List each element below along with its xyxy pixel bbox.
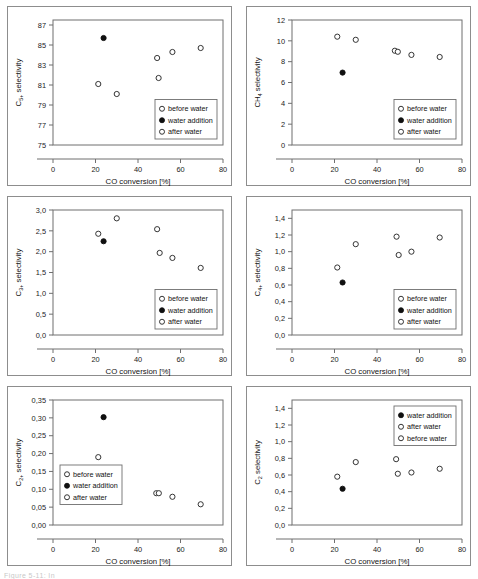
svg-text:20: 20 [330, 355, 338, 364]
svg-text:before water: before water [168, 294, 209, 303]
panel-c4plus: 0,00,20,40,60,81,01,21,4020406080CO conv… [239, 190, 478, 380]
plot-area-3: 0,00,20,40,60,81,01,21,4020406080CO conv… [246, 196, 471, 376]
svg-text:after water: after water [407, 127, 442, 136]
svg-text:8: 8 [281, 57, 285, 66]
svg-text:water addition: water addition [167, 306, 213, 315]
svg-text:after water: after water [407, 317, 442, 326]
svg-text:C3+ selectivity: C3+ selectivity [14, 249, 24, 297]
svg-text:before water: before water [73, 470, 114, 479]
svg-text:1,2: 1,2 [275, 421, 285, 430]
panel-c2plus: 0,000,050,100,150,200,250,300,3502040608… [0, 380, 239, 570]
svg-text:80: 80 [458, 165, 466, 174]
scatter-chart-c2plus: 0,000,050,100,150,200,250,300,3502040608… [7, 386, 232, 566]
svg-text:1,0: 1,0 [275, 437, 285, 446]
svg-text:81: 81 [38, 81, 46, 90]
svg-text:40: 40 [134, 165, 142, 174]
svg-text:60: 60 [176, 355, 184, 364]
svg-text:0,0: 0,0 [36, 331, 46, 340]
svg-text:0,15: 0,15 [32, 467, 46, 476]
svg-text:40: 40 [134, 355, 142, 364]
scatter-chart-ch4: 024681012020406080CO conversion [%]CH4 s… [246, 6, 471, 186]
svg-text:0,2: 0,2 [275, 314, 285, 323]
svg-text:80: 80 [219, 355, 227, 364]
svg-text:after water: after water [168, 317, 203, 326]
svg-text:0: 0 [290, 165, 294, 174]
svg-text:60: 60 [176, 545, 184, 554]
svg-text:20: 20 [330, 165, 338, 174]
svg-text:water addition: water addition [406, 411, 452, 420]
svg-text:CO conversion [%]: CO conversion [%] [106, 557, 171, 566]
scatter-chart-c5plus: 75777981838587020406080CO conversion [%]… [7, 6, 232, 186]
svg-text:79: 79 [38, 101, 46, 110]
svg-text:water addition: water addition [406, 306, 452, 315]
svg-text:C2 selectivity: C2 selectivity [253, 440, 263, 485]
svg-text:before water: before water [407, 434, 448, 443]
panel-c5plus: 75777981838587020406080CO conversion [%]… [0, 0, 239, 190]
svg-text:77: 77 [38, 121, 46, 130]
plot-area-1: 024681012020406080CO conversion [%]CH4 s… [246, 6, 471, 186]
svg-text:2: 2 [281, 120, 285, 129]
svg-text:20: 20 [91, 545, 99, 554]
svg-text:0,0: 0,0 [275, 521, 285, 530]
svg-text:water addition: water addition [167, 116, 213, 125]
svg-text:before water: before water [407, 294, 448, 303]
figure-caption: Figure 5-11: In [4, 572, 55, 579]
plot-area-5: 0,00,20,40,60,81,01,21,4020406080CO conv… [246, 386, 471, 566]
svg-text:0,0: 0,0 [275, 331, 285, 340]
svg-text:12: 12 [277, 16, 285, 25]
svg-text:40: 40 [373, 545, 381, 554]
svg-text:after water: after water [168, 127, 203, 136]
plot-area-2: 0,00,51,01,52,02,53,0020406080CO convers… [7, 196, 232, 376]
svg-text:10: 10 [277, 37, 285, 46]
svg-text:0,00: 0,00 [32, 521, 46, 530]
svg-text:60: 60 [415, 545, 423, 554]
svg-text:75: 75 [38, 141, 46, 150]
svg-text:40: 40 [134, 545, 142, 554]
panel-c3plus: 0,00,51,01,52,02,53,0020406080CO convers… [0, 190, 239, 380]
svg-text:water addition: water addition [406, 116, 452, 125]
svg-text:0: 0 [281, 141, 285, 150]
svg-text:CO conversion [%]: CO conversion [%] [345, 557, 410, 566]
svg-text:0,05: 0,05 [32, 503, 46, 512]
svg-text:0,8: 0,8 [275, 454, 285, 463]
svg-text:80: 80 [458, 545, 466, 554]
svg-text:0,25: 0,25 [32, 431, 46, 440]
svg-text:CO conversion [%]: CO conversion [%] [106, 367, 171, 376]
figure-sheet: 75777981838587020406080CO conversion [%]… [0, 0, 478, 579]
svg-text:CH4 selectivity: CH4 selectivity [253, 57, 263, 107]
svg-text:CO conversion [%]: CO conversion [%] [345, 177, 410, 186]
svg-text:0: 0 [290, 355, 294, 364]
plot-area-0: 75777981838587020406080CO conversion [%]… [7, 6, 232, 186]
svg-text:C5+ selectivity: C5+ selectivity [14, 59, 24, 107]
svg-text:0,6: 0,6 [275, 281, 285, 290]
svg-text:60: 60 [176, 165, 184, 174]
svg-text:0,6: 0,6 [275, 471, 285, 480]
svg-text:after water: after water [407, 422, 442, 431]
svg-text:2,0: 2,0 [36, 247, 46, 256]
svg-text:0,5: 0,5 [36, 310, 46, 319]
svg-text:before water: before water [168, 104, 209, 113]
svg-text:0,4: 0,4 [275, 487, 285, 496]
svg-text:0: 0 [51, 165, 55, 174]
svg-text:0,30: 0,30 [32, 414, 46, 423]
svg-text:40: 40 [373, 355, 381, 364]
scatter-chart-c2: 0,00,20,40,60,81,01,21,4020406080CO conv… [246, 386, 471, 566]
svg-text:0,35: 0,35 [32, 396, 46, 405]
svg-text:0,20: 0,20 [32, 449, 46, 458]
svg-text:0: 0 [51, 355, 55, 364]
svg-text:1,5: 1,5 [36, 268, 46, 277]
svg-text:20: 20 [91, 355, 99, 364]
svg-text:3,0: 3,0 [36, 206, 46, 215]
svg-text:85: 85 [38, 41, 46, 50]
scatter-chart-c4plus: 0,00,20,40,60,81,01,21,4020406080CO conv… [246, 196, 471, 376]
svg-text:60: 60 [415, 355, 423, 364]
svg-text:1,4: 1,4 [275, 404, 285, 413]
svg-text:0,10: 0,10 [32, 485, 46, 494]
svg-text:water addition: water addition [72, 481, 118, 490]
panel-c2: 0,00,20,40,60,81,01,21,4020406080CO conv… [239, 380, 478, 570]
svg-text:80: 80 [458, 355, 466, 364]
svg-text:0,8: 0,8 [275, 264, 285, 273]
svg-text:60: 60 [415, 165, 423, 174]
svg-text:CO conversion [%]: CO conversion [%] [106, 177, 171, 186]
svg-text:1,0: 1,0 [275, 247, 285, 256]
